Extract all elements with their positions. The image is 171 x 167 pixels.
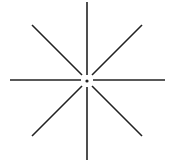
center-dot — [85, 79, 88, 82]
ray-down-left — [32, 86, 82, 136]
ray-down-right — [92, 86, 142, 136]
ray-up-right — [92, 25, 142, 75]
starburst-icon — [0, 0, 171, 167]
starburst-diagram — [0, 0, 171, 167]
ray-up-left — [32, 25, 82, 75]
